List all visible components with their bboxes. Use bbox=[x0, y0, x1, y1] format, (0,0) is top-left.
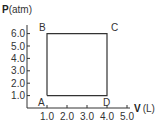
y-tick-label: 3.0 bbox=[11, 65, 25, 76]
point-labels: ABCD bbox=[38, 22, 118, 108]
y-tick-label: 4.0 bbox=[11, 53, 25, 64]
y-tick-label: 2.0 bbox=[11, 78, 25, 89]
x-tick-label: 5.0 bbox=[120, 111, 134, 122]
x-tick-label: 3.0 bbox=[80, 111, 94, 122]
y-tick-label: 1.0 bbox=[11, 90, 25, 101]
point-label-d: D bbox=[103, 97, 110, 108]
x-tick-label: 4.0 bbox=[100, 111, 114, 122]
y-tick-label: 5.0 bbox=[11, 41, 25, 52]
series bbox=[47, 34, 107, 96]
cycle-path bbox=[47, 34, 107, 96]
x-axis-label: V(L) bbox=[134, 103, 155, 114]
y-tick-label: 6.0 bbox=[11, 28, 25, 39]
point-label-a: A bbox=[38, 97, 45, 108]
x-tick-label: 2.0 bbox=[60, 111, 74, 122]
y-axis-unit: (atm) bbox=[9, 4, 32, 15]
pv-diagram: 1.02.03.04.05.06.0 1.02.03.04.05.0 ABCD … bbox=[0, 0, 162, 127]
x-tick-label: 1.0 bbox=[40, 111, 54, 122]
x-axis-symbol: V bbox=[134, 103, 141, 114]
y-axis-label: P(atm) bbox=[2, 4, 32, 15]
point-label-c: C bbox=[111, 22, 118, 33]
point-label-b: B bbox=[39, 22, 46, 33]
x-axis-unit: (L) bbox=[143, 103, 155, 114]
